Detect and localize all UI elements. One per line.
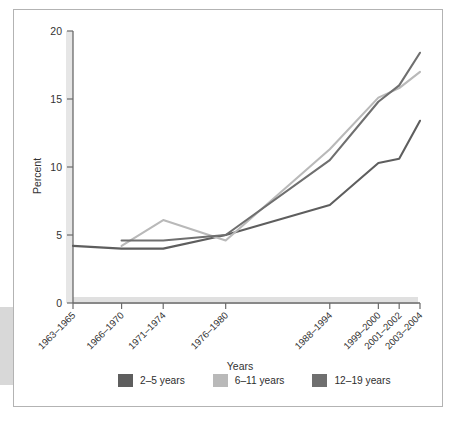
y-tick-label: 15 [50,93,62,105]
legend-swatch [312,374,327,387]
legend-swatch [118,374,133,387]
x-tick-label: 1976–1980 [188,310,230,352]
y-tick-label: 10 [50,161,62,173]
x-tick-label: 1963–1965 [36,310,78,352]
legend-label: 12–19 years [334,375,390,386]
x-tick-label: 1966–1970 [84,310,126,352]
y-tick-label: 5 [56,229,62,241]
data-series-group [73,53,420,249]
series-line [122,53,420,241]
x-axis-ticks: 1963–19651966–19701971–19741976–19801988… [36,303,425,351]
legend-label: 6–11 years [235,375,285,386]
chart-legend: 2–5 years6–11 years12–19 years [118,374,418,387]
y-tick-label: 0 [56,297,62,309]
series-line [73,121,420,249]
x-tick-label: 1971–1974 [126,309,168,351]
x-tick-label: 1988–1994 [292,309,334,351]
series-line [122,72,420,246]
legend-item: 6–11 years [213,374,285,387]
line-chart-svg: 05101520 1963–19651966–19701971–19741976… [0,0,458,427]
y-tick-label: 20 [50,25,62,37]
y-axis-title: Percent [31,158,43,194]
chart-figure: 05101520 1963–19651966–19701971–19741976… [0,0,458,427]
x-axis-title: Years [227,360,253,372]
legend-item: 2–5 years [118,374,185,387]
legend-label: 2–5 years [140,375,185,386]
legend-item: 12–19 years [312,374,390,387]
legend-swatch [213,374,228,387]
